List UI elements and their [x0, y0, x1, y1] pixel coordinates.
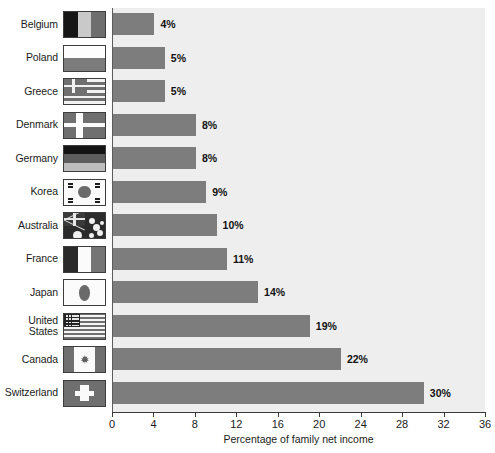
x-axis-tick [319, 412, 320, 417]
country-label-line: States [29, 326, 58, 338]
country-label: Australia [0, 209, 58, 242]
bar-value-label: 8% [202, 147, 217, 169]
bar [113, 348, 341, 370]
flag-france-icon [63, 246, 106, 273]
chart-row: France11% [0, 243, 495, 276]
x-axis-tick-label: 0 [97, 418, 127, 430]
country-label: Korea [0, 176, 58, 209]
bar-value-label: 19% [316, 315, 337, 337]
country-label-line: Poland [26, 52, 58, 64]
chart-row: Korea9% [0, 176, 495, 209]
country-label: Poland [0, 42, 58, 75]
country-label: Greece [0, 75, 58, 108]
bar-value-label: 22% [347, 348, 368, 370]
bar [113, 382, 424, 404]
chart-row: Australia10% [0, 209, 495, 242]
bar-value-label: 5% [171, 47, 186, 69]
x-axis-tick [195, 412, 196, 417]
flag-belgium-icon [63, 11, 106, 38]
flag-australia-icon [63, 212, 106, 239]
x-axis-tick-label: 32 [429, 418, 459, 430]
x-axis-tick-label: 4 [138, 418, 168, 430]
chart-row: Germany8% [0, 142, 495, 175]
bar-value-label: 5% [171, 80, 186, 102]
bar-value-label: 10% [223, 214, 244, 236]
country-label-line: Switzerland [5, 387, 58, 399]
flag-japan-icon [63, 279, 106, 306]
country-label: Germany [0, 142, 58, 175]
country-label-line: France [26, 253, 58, 265]
flag-canada-icon [63, 346, 106, 373]
country-label-line: Greece [24, 86, 58, 98]
x-axis-tick [153, 412, 154, 417]
country-label: Denmark [0, 109, 58, 142]
x-axis-tick-label: 24 [346, 418, 376, 430]
bar [113, 147, 196, 169]
bar-value-label: 11% [233, 248, 253, 270]
country-label: Japan [0, 276, 58, 309]
country-label: France [0, 243, 58, 276]
flag-korea-icon [63, 179, 106, 206]
country-label: Belgium [0, 8, 58, 41]
bar-value-label: 30% [430, 382, 451, 404]
country-label: Canada [0, 343, 58, 376]
country-label: Switzerland [0, 377, 58, 410]
x-axis-tick [444, 412, 445, 417]
x-axis-tick-label: 8 [180, 418, 210, 430]
bar-chart: Belgium4%Poland5%Greece5%Denmark8%German… [0, 0, 495, 453]
bar [113, 248, 227, 270]
x-axis-title: Percentage of family net income [112, 433, 485, 445]
bar [113, 47, 165, 69]
bar [113, 13, 154, 35]
flag-poland-icon [63, 45, 106, 72]
x-axis-tick [485, 412, 486, 417]
flag-greece-icon [63, 78, 106, 105]
x-axis-tick [402, 412, 403, 417]
country-label-line: Belgium [21, 19, 58, 31]
chart-row: Greece5% [0, 75, 495, 108]
country-label-line: Korea [30, 186, 58, 198]
chart-row: UnitedStates19% [0, 310, 495, 343]
bar [113, 315, 310, 337]
bar [113, 80, 165, 102]
chart-row: Denmark8% [0, 109, 495, 142]
flag-denmark-icon [63, 112, 106, 139]
bar [113, 281, 258, 303]
country-label-line: Germany [16, 153, 58, 165]
flag-united-states-icon [63, 313, 106, 340]
country-label-line: Australia [18, 220, 58, 232]
x-axis-tick [278, 412, 279, 417]
chart-row: Belgium4% [0, 8, 495, 41]
bar-value-label: 9% [212, 181, 227, 203]
flag-germany-icon [63, 145, 106, 172]
x-axis-line [112, 412, 485, 413]
x-axis-tick [112, 412, 113, 417]
chart-row: Switzerland30% [0, 377, 495, 410]
chart-row: Poland5% [0, 42, 495, 75]
country-label-line: Japan [30, 287, 58, 299]
bar-value-label: 14% [264, 281, 285, 303]
flag-switzerland-icon [63, 380, 106, 407]
bar [113, 181, 206, 203]
x-axis-tick-label: 36 [470, 418, 495, 430]
chart-row: Canada22% [0, 343, 495, 376]
y-axis-line [112, 8, 113, 412]
x-axis-tick [361, 412, 362, 417]
x-axis-tick-label: 28 [387, 418, 417, 430]
country-label-line: Denmark [16, 119, 58, 131]
country-label-line: Canada [22, 354, 58, 366]
x-axis-tick-label: 20 [304, 418, 334, 430]
x-axis-tick [236, 412, 237, 417]
country-label: UnitedStates [0, 310, 58, 343]
x-axis-tick-label: 16 [263, 418, 293, 430]
x-axis-tick-label: 12 [221, 418, 251, 430]
bar [113, 114, 196, 136]
chart-row: Japan14% [0, 276, 495, 309]
bar-value-label: 8% [202, 114, 217, 136]
bar-value-label: 4% [160, 13, 175, 35]
bar [113, 214, 217, 236]
